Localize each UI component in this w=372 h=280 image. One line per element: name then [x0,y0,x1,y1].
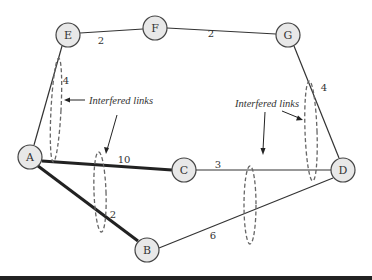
node-label-e: E [64,29,72,42]
weight-g-d: 4 [321,82,327,93]
interference-ellipse-e-a [48,58,63,162]
node-label-f: F [151,22,159,35]
node-c: C [172,158,196,182]
weight-f-g: 2 [208,28,214,39]
annotation-interfered-links-left: Interfered links [88,95,153,106]
node-a: A [18,145,42,169]
weight-e-f: 2 [98,35,104,46]
weight-a-c: 10 [118,154,131,165]
edge-e-f [80,29,143,33]
node-g: G [276,23,300,47]
weight-labels: 2 2 4 4 10 3 2 6 [63,28,327,241]
interference-ellipse-g-d [303,81,318,181]
node-b: B [135,238,159,262]
interference-ellipse-c-d-b-d [244,166,256,244]
arrow-right-head [296,116,303,121]
arrow-down-left-line [107,115,117,150]
node-d: D [331,158,355,182]
edge-g-d [294,46,339,158]
arrow-down-left-head [104,147,109,154]
network-diagram: Interfered links Interfered links 2 2 4 … [0,0,372,280]
edge-a-c [42,161,172,170]
edge-b-d [159,178,333,248]
edges [34,28,339,248]
edge-f-g [167,28,276,34]
node-label-c: C [180,164,188,177]
weight-b-d: 6 [210,230,216,241]
interference-groups [48,58,318,244]
node-label-g: G [284,29,293,42]
weight-a-b: 2 [110,209,116,220]
arrow-down-right-line [263,112,265,150]
node-label-a: A [25,151,35,164]
arrow-left-head [64,98,70,103]
node-label-d: D [339,164,348,177]
node-label-b: B [143,244,151,257]
node-f: F [143,16,167,40]
weight-e-a: 4 [63,75,69,86]
edge-e-a [34,46,62,145]
arrow-right-line [282,111,299,118]
weight-c-d: 3 [215,159,221,170]
bottom-divider [0,276,372,280]
node-e: E [56,23,80,47]
annotation-interfered-links-right: Interfered links [234,98,299,109]
edge-a-b [38,166,138,241]
arrow-down-right-head [261,148,266,155]
